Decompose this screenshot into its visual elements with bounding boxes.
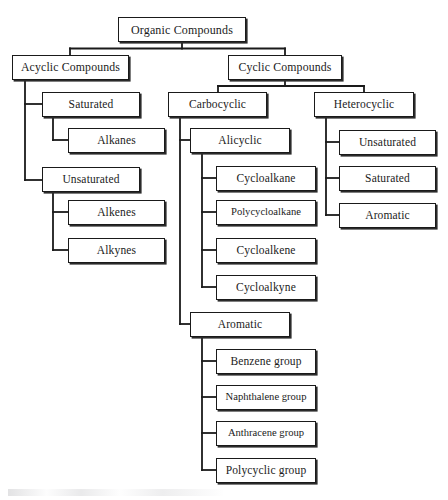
node-naphthalene-group[interactable]: Naphthalene group — [216, 385, 316, 410]
node-label: Saturated — [365, 173, 410, 185]
node-label: Alicyclic — [218, 135, 262, 147]
node-label: Aromatic — [365, 210, 410, 222]
node-alkanes[interactable]: Alkanes — [68, 128, 165, 153]
node-cyclic-compounds[interactable]: Cyclic Compounds — [228, 55, 342, 80]
node-benzene-group[interactable]: Benzene group — [216, 349, 316, 374]
node-heterocyclic[interactable]: Heterocyclic — [314, 92, 414, 117]
node-label: Unsaturated — [359, 137, 416, 149]
node-carbocyclic-aromatic[interactable]: Aromatic — [190, 312, 290, 337]
node-polycycloalkane[interactable]: Polycycloalkane — [216, 200, 316, 225]
node-alkenes[interactable]: Alkenes — [68, 200, 165, 225]
node-label: Benzene group — [230, 356, 301, 368]
node-label: Aromatic — [218, 319, 263, 331]
node-label: Unsaturated — [62, 174, 119, 186]
node-label: Organic Compounds — [131, 24, 233, 36]
node-acyclic-saturated[interactable]: Saturated — [42, 92, 140, 117]
node-label: Polycycloalkane — [231, 207, 301, 218]
organic-compounds-classification-diagram: Organic Compounds Acyclic Compounds Cycl… — [0, 0, 448, 500]
node-heterocyclic-unsaturated[interactable]: Unsaturated — [339, 130, 436, 155]
node-alicyclic[interactable]: Alicyclic — [190, 128, 290, 153]
node-heterocyclic-aromatic[interactable]: Aromatic — [339, 203, 436, 228]
page-edge-artifact — [8, 489, 223, 496]
node-anthracene-group[interactable]: Anthracene group — [216, 421, 316, 446]
node-label: Alkynes — [97, 245, 136, 257]
node-heterocyclic-saturated[interactable]: Saturated — [339, 166, 436, 191]
node-label: Naphthalene group — [226, 392, 307, 403]
node-label: Cyclic Compounds — [238, 62, 331, 74]
node-carbocyclic[interactable]: Carbocyclic — [168, 92, 267, 117]
node-label: Saturated — [69, 99, 114, 111]
node-label: Alkanes — [97, 135, 136, 147]
node-label: Anthracene group — [228, 428, 304, 439]
node-label: Acyclic Compounds — [21, 62, 120, 74]
node-label: Cycloalkene — [236, 245, 295, 257]
node-label: Cycloalkyne — [236, 282, 296, 294]
node-cycloalkane[interactable]: Cycloalkane — [216, 166, 316, 191]
node-label: Cycloalkane — [236, 173, 295, 185]
node-label: Heterocyclic — [334, 99, 395, 111]
node-cycloalkyne[interactable]: Cycloalkyne — [216, 275, 316, 300]
node-polycyclic-group[interactable]: Polycyclic group — [216, 458, 316, 483]
node-label: Polycyclic group — [226, 465, 307, 477]
node-cycloalkene[interactable]: Cycloalkene — [216, 238, 316, 263]
node-label: Carbocyclic — [189, 99, 246, 111]
node-acyclic-compounds[interactable]: Acyclic Compounds — [12, 55, 129, 80]
node-organic-compounds[interactable]: Organic Compounds — [118, 17, 246, 42]
node-acyclic-unsaturated[interactable]: Unsaturated — [42, 167, 140, 192]
node-label: Alkenes — [97, 207, 136, 219]
node-alkynes[interactable]: Alkynes — [68, 238, 165, 263]
